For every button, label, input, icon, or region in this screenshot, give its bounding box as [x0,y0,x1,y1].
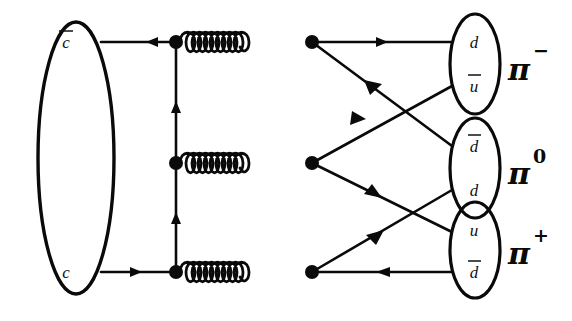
pion-symbol-pi-zero: π [507,156,531,191]
quark-label-c: c [62,263,70,282]
vertex-bot-right [305,265,319,279]
quark-label-u-bot: u [470,221,479,240]
quark-label-d-top: d [470,33,479,52]
vertex-mid-right [305,156,319,170]
feynman-diagram-svg: c c [0,0,572,321]
vertex-mid-left [169,156,183,170]
vertex-top-right [305,35,319,49]
vertex-bot-left [169,265,183,279]
pion-charge-pi-minus: − [533,39,549,61]
feynman-diagram-canvas: c c [0,0,572,321]
pion-charge-pi-zero: 0 [533,145,546,167]
quark-label-d-mid: d [470,181,479,200]
quark-label-dbar-mid: d [470,137,479,156]
quark-label-ubar-top: u [470,77,479,96]
pion-symbol-pi-minus: π [507,52,531,87]
pion-charge-pi-plus: + [533,224,549,246]
quark-label-cbar-text: c [62,33,70,52]
pion-symbol-pi-plus: π [507,236,531,271]
quark-label-dbar-bot: d [470,263,479,282]
diagram-background [0,0,572,321]
vertex-top-left [169,35,183,49]
